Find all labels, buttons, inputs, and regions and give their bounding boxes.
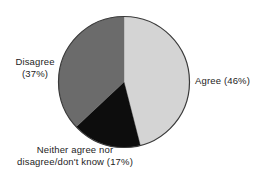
pie-label-neither: Neither agree nor disagree/don't know (1… xyxy=(0,144,150,167)
pie-label-agree: Agree (46%) xyxy=(195,75,250,87)
pie-label-neither-line2: disagree/don't know (17%) xyxy=(0,156,150,168)
pie-label-disagree-line2: (37%) xyxy=(6,68,64,80)
pie-slices xyxy=(58,16,189,147)
pie-chart-figure: Disagree (37%) Agree (46%) Neither agree… xyxy=(0,0,257,173)
pie-label-disagree-line1: Disagree xyxy=(6,56,64,68)
pie-label-agree-line1: Agree (46%) xyxy=(195,75,250,87)
pie-label-neither-line1: Neither agree nor xyxy=(0,144,150,156)
pie-label-disagree: Disagree (37%) xyxy=(6,56,64,79)
